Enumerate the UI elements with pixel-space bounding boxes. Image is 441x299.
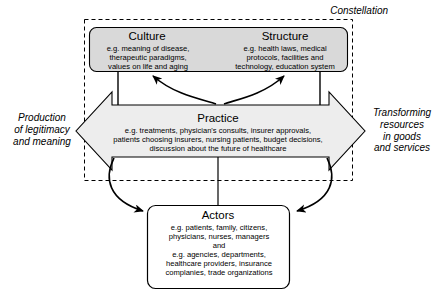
- arrow-practice-to-actors-right: [297, 158, 332, 211]
- culture-body: e.g. meaning of disease, therapeutic par…: [88, 45, 208, 72]
- actors-title: Actors: [163, 209, 273, 223]
- structure-body: e.g. health laws, medical protocols, fac…: [222, 45, 348, 72]
- arrow-practice-to-culture: [153, 76, 216, 104]
- actors-body: e.g. patients, family, citizens, physici…: [150, 224, 288, 278]
- culture-title: Culture: [92, 30, 202, 44]
- left-caption: Production of legitimacy and meaning: [6, 112, 78, 147]
- diagram-canvas: Constellation Culture e.g. meaning of di…: [0, 0, 441, 299]
- practice-title: Practice: [163, 112, 273, 126]
- arrow-practice-to-actors-left: [109, 158, 143, 211]
- constellation-label: Constellation: [278, 5, 388, 17]
- structure-title: Structure: [230, 30, 340, 44]
- practice-body: e.g. treatments, physician's consults, i…: [98, 127, 338, 154]
- arrow-practice-to-structure: [224, 76, 284, 104]
- right-caption: Transforming resources in goods and serv…: [364, 107, 440, 154]
